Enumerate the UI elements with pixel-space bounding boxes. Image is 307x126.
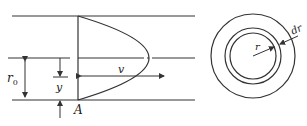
velocity-profile-figure: r0 y v A xyxy=(7,16,195,118)
v-label: v xyxy=(118,63,125,76)
dr-label: dr xyxy=(289,21,305,36)
r0-label: r0 xyxy=(7,71,18,87)
y-label: y xyxy=(55,81,63,94)
dr-leader-line xyxy=(280,36,298,44)
point-a-label: A xyxy=(73,103,83,117)
r-label: r xyxy=(255,41,261,52)
pipe-cross-section-figure: r dr xyxy=(211,14,305,98)
diagram-canvas: r0 y v A r dr xyxy=(0,0,307,126)
